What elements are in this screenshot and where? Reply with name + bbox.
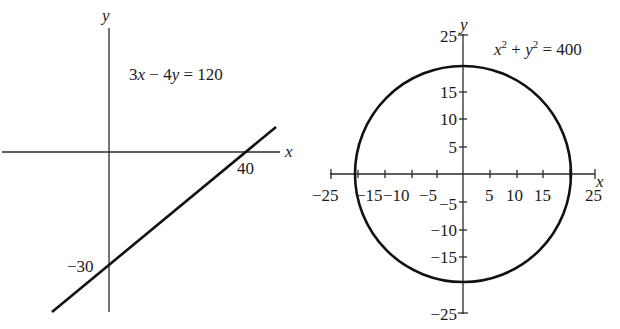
- svg-text:−15: −15: [356, 186, 383, 205]
- y-axis-label: y: [458, 15, 468, 34]
- svg-text:−5: −5: [439, 195, 457, 214]
- svg-text:−25: −25: [312, 186, 339, 205]
- y-axis-label: y: [100, 6, 110, 25]
- x-intercept-label: 40: [237, 159, 254, 178]
- svg-text:15: 15: [440, 83, 457, 102]
- svg-text:25: 25: [440, 27, 457, 46]
- circle-graph: y x x2 + y2 = 400 −25 −15 −10 −5 5 10 15…: [312, 15, 604, 324]
- figure: y x 3x − 4y = 120 40 −30: [0, 0, 620, 329]
- svg-text:−10: −10: [383, 186, 410, 205]
- svg-text:10: 10: [440, 110, 457, 129]
- x-tick-labels: −25 −15 −10 −5 5 10 15 25: [312, 186, 602, 205]
- y-intercept-label: −30: [67, 257, 94, 276]
- svg-text:25: 25: [585, 186, 602, 205]
- svg-text:10: 10: [506, 186, 523, 205]
- svg-text:−15: −15: [430, 248, 457, 267]
- svg-text:−25: −25: [430, 305, 457, 324]
- circle-equation-label: x2 + y2 = 400: [493, 38, 582, 59]
- svg-text:−10: −10: [430, 221, 457, 240]
- line-equation-label: 3x − 4y = 120: [129, 65, 223, 84]
- linear-graph: y x 3x − 4y = 120 40 −30: [2, 6, 293, 312]
- line-3x-4y-120: [52, 127, 276, 312]
- x-axis-label: x: [284, 142, 293, 161]
- svg-text:5: 5: [449, 138, 458, 157]
- svg-text:15: 15: [534, 186, 551, 205]
- svg-text:5: 5: [485, 186, 494, 205]
- svg-text:−5: −5: [419, 186, 437, 205]
